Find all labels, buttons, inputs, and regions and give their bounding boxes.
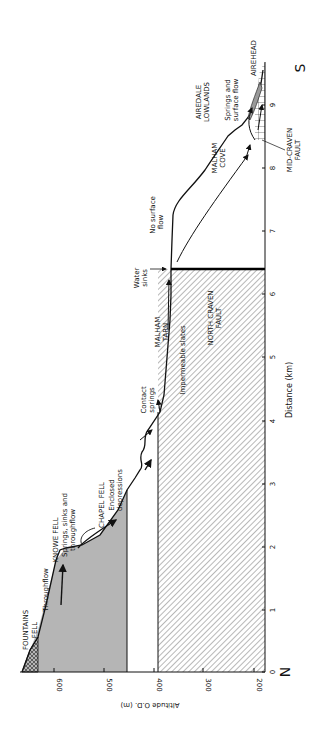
dist-tick-5: 5 (269, 355, 277, 359)
dist-tick-0: 0 (269, 670, 277, 674)
dist-tick-7: 7 (269, 229, 277, 233)
enclosed-depressions-label: Enclosed (108, 479, 116, 510)
malham-tarn-label-2: TARN (162, 323, 170, 343)
no-surface-flow-label-2: flow (157, 215, 165, 230)
alt-tick-300: 300 (204, 678, 212, 691)
springs-surface-flow-label: Springs and (224, 79, 232, 121)
chapel-flow-arrow (145, 460, 151, 470)
dist-tick-9: 9 (269, 103, 277, 107)
alt-tick-200: 200 (255, 678, 263, 691)
springs-surface-flow-label-2: surface flow (232, 78, 240, 121)
chapel-fell-label: CHAPEL FELL (98, 482, 106, 528)
mid-craven-fault-label-2: FAULT (294, 139, 302, 160)
altitude-axis-label: Altitude O.D. (m) (120, 701, 179, 709)
water-sinks-label: Water (133, 268, 141, 289)
fountains-fell-label: FOUNTAINS (22, 609, 30, 650)
malham-cove-label-2: COVE (219, 148, 227, 168)
dist-tick-6: 6 (269, 291, 277, 296)
alt-tick-500: 500 (105, 678, 113, 691)
springs-sinks-label-2: throughflow (69, 509, 77, 551)
dist-tick-3: 3 (269, 482, 277, 486)
north-label: N (277, 667, 293, 677)
fountains-fell-label-2: FELL (31, 622, 39, 638)
airedale-lowlands-label-2: LOWLANDS (203, 81, 211, 122)
water-sinks-label-2: sinks (141, 269, 149, 287)
impermeable-slates-label: Impermeable slates (179, 325, 187, 395)
enclosed-depressions-label-2: depressions (116, 469, 124, 511)
airehead-label: AIREHEAD (250, 40, 258, 76)
throughflow-label: Throughflow (42, 568, 50, 613)
springs-sinks-label: Springs, sinks and (61, 493, 69, 557)
knowe-fell-label: KNOWE FELL (52, 517, 60, 562)
dist-tick-8: 8 (269, 166, 277, 170)
malham-cove-label: MALHAM (211, 143, 219, 174)
contact-springs-label: Contact (140, 386, 148, 413)
distance-axis-label: Distance (km) (285, 362, 294, 418)
south-label: S (292, 63, 308, 72)
malham-tarn-label: MALHAM (154, 317, 162, 348)
dist-tick-1: 1 (269, 608, 277, 612)
no-surface-flow-label: No surface (149, 196, 157, 234)
contact-springs-label-2: springs (148, 387, 156, 413)
mid-craven-fault-label: MID-CRAVEN (286, 128, 294, 172)
alt-tick-400: 400 (155, 678, 163, 691)
airedale-lowlands-label: AIREDALE (195, 85, 203, 120)
north-craven-fault-label-2: FAULT (215, 307, 223, 328)
north-craven-fault-label: NORTH CRAVEN (207, 290, 215, 345)
hydrological-cross-section: 0 1 2 3 4 5 6 7 8 9 Distance (km) N S 60… (0, 0, 334, 737)
dist-tick-2: 2 (269, 545, 277, 549)
dist-tick-4: 4 (269, 418, 277, 423)
alt-tick-600: 600 (55, 678, 63, 691)
